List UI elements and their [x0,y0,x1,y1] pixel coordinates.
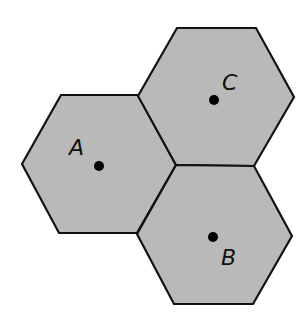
hexagon-diagram: A C B [0,0,306,326]
diagram-svg: A C B [0,0,306,326]
point-c-dot [209,95,219,105]
label-c: C [222,70,238,95]
label-b: B [221,245,236,270]
label-a: A [67,135,84,160]
point-b-dot [208,232,218,242]
point-a-dot [94,161,104,171]
